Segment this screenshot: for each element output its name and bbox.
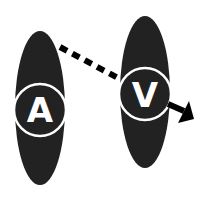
output-arrow: [168, 101, 194, 123]
node-a: A: [14, 31, 66, 185]
dashed-edge-a-to-v: [60, 47, 118, 78]
node-a-label: A: [27, 90, 54, 130]
node-v-label: V: [132, 75, 159, 115]
node-v: V: [119, 16, 171, 168]
diagram-canvas: A V: [0, 0, 205, 197]
output-arrow-shaft: [168, 104, 184, 111]
